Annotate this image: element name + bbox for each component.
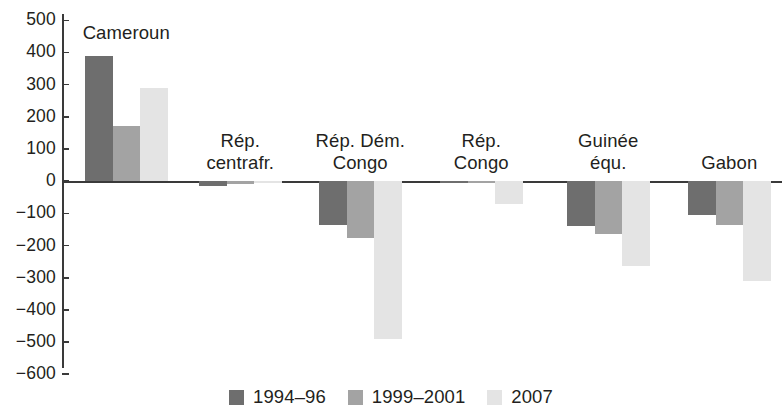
bar [468,181,496,183]
bar [319,181,347,224]
category-label-line: Guinée [518,130,698,152]
bar [595,181,623,234]
bar [495,181,523,204]
category-label: Cameroun [36,22,216,44]
legend-item[interactable]: 2007 [487,388,553,407]
category-label-line: Cameroun [36,22,216,44]
bar [374,181,402,339]
bar [622,181,650,266]
legend-item[interactable]: 1994–96 [229,388,326,407]
legend-swatch-1999-2001 [348,390,363,405]
chart-legend: 1994–961999–20012007 [0,388,782,407]
legend-label: 1994–96 [253,388,326,407]
legend-label: 1999–2001 [372,388,466,407]
bar [199,181,227,186]
bar-chart: 5004003002001000−100−200−300−400−500−600… [0,0,782,414]
category-label-line: Gabon [639,152,782,174]
legend-item[interactable]: 1999–2001 [348,388,466,407]
bar [688,181,716,215]
bar [716,181,744,224]
bar [85,56,113,182]
bar [743,181,771,281]
bar [567,181,595,226]
legend-swatch-2007 [487,390,502,405]
bar [347,181,375,237]
legend-label: 2007 [511,388,553,407]
bar [113,126,141,181]
bar [227,181,255,184]
bar [440,181,468,183]
legend-swatch-1994-96 [229,390,244,405]
bar [254,181,282,183]
plot-area [0,0,782,414]
category-label: Gabon [639,152,782,174]
